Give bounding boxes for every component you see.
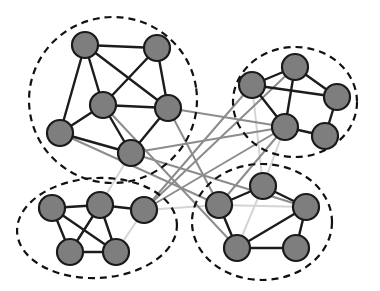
graph-node-n17[interactable] <box>206 192 232 218</box>
graph-node-n14[interactable] <box>131 197 157 223</box>
graph-node-n20[interactable] <box>224 235 250 261</box>
graph-node-n9[interactable] <box>324 84 350 110</box>
graph-node-n21[interactable] <box>283 235 309 261</box>
graph-node-n5[interactable] <box>47 120 73 146</box>
faint-edge-layer <box>100 85 306 252</box>
graph-node-n15[interactable] <box>57 239 83 265</box>
graph-node-n2[interactable] <box>144 35 170 61</box>
graph-node-n19[interactable] <box>293 194 319 220</box>
graph-node-n8[interactable] <box>239 72 265 98</box>
graph-node-n10[interactable] <box>272 114 298 140</box>
graph-node-n4[interactable] <box>155 95 181 121</box>
graph-canvas <box>0 0 380 291</box>
community-boundary-c3 <box>14 174 179 282</box>
graph-node-n1[interactable] <box>72 32 98 58</box>
inter-community-edge <box>168 108 285 127</box>
network-graph-figure <box>0 0 380 291</box>
graph-node-n3[interactable] <box>90 92 116 118</box>
graph-node-n16[interactable] <box>103 239 129 265</box>
graph-node-n18[interactable] <box>250 173 276 199</box>
graph-node-n7[interactable] <box>282 54 308 80</box>
graph-node-n13[interactable] <box>87 192 113 218</box>
graph-node-n12[interactable] <box>39 195 65 221</box>
graph-node-n11[interactable] <box>312 123 338 149</box>
graph-node-n6[interactable] <box>118 140 144 166</box>
